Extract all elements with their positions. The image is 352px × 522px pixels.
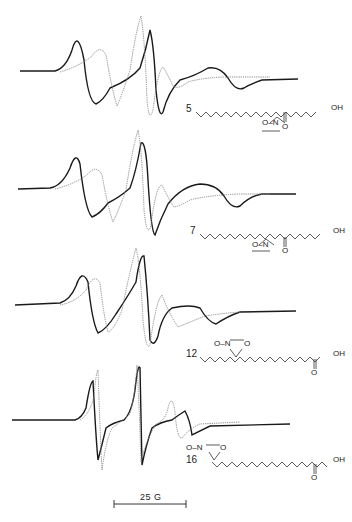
nitroxide-7: O–N (252, 240, 268, 249)
oh-group-16: OH (333, 455, 345, 464)
panel-label-5: 5 (186, 103, 192, 114)
spectrum-16-solid (12, 367, 290, 465)
panel-label-16: 16 (186, 454, 197, 465)
carbonyl-o-7: O (282, 246, 288, 255)
spectra-plot (0, 0, 352, 522)
nitroxide-16: O–N (186, 443, 202, 452)
structure-5 (196, 112, 316, 131)
scale-bar-label: 25 G (140, 492, 162, 502)
carbonyl-o-5: O (282, 122, 288, 131)
spectrum-12-solid (15, 256, 296, 343)
spectrum-5-solid (20, 30, 298, 114)
ring-o-16: O (220, 443, 226, 452)
oh-group-7: OH (333, 226, 345, 235)
nitroxide-12: O–N (214, 339, 230, 348)
epr-spectra-figure: 5 7 12 16 OH O O–N O OH O O–N O OH O O–N… (0, 0, 352, 522)
oh-group-5: OH (331, 103, 343, 112)
oh-group-12: OH (333, 349, 345, 358)
carbonyl-o-16: O (311, 473, 317, 482)
spectrum-16-dotted (80, 365, 240, 470)
spectrum-7-solid (18, 143, 296, 235)
carbonyl-o-12: O (311, 368, 317, 377)
nitroxide-5: O–N (262, 118, 278, 127)
ring-o-12: O (244, 339, 250, 348)
panel-label-7: 7 (190, 225, 196, 236)
panel-label-12: 12 (186, 348, 197, 359)
